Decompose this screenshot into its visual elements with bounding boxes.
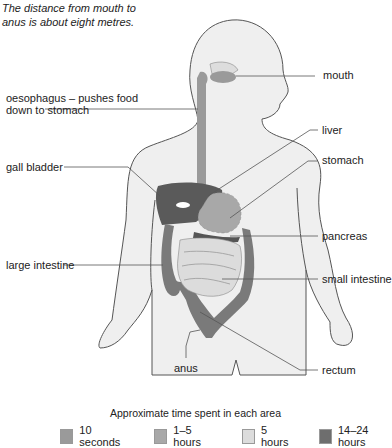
legend-item: 10 seconds xyxy=(60,424,128,448)
label-large-intestine: large intestine xyxy=(6,259,75,272)
label-stomach: stomach xyxy=(322,154,364,167)
legend-label: 1–5 hours xyxy=(173,424,215,448)
legend-title: Approximate time spent in each area xyxy=(0,407,391,419)
legend-swatch xyxy=(242,429,255,444)
legend-label: 5 hours xyxy=(261,424,293,448)
legend-label: 10 seconds xyxy=(79,424,128,448)
legend-swatch xyxy=(319,429,332,444)
legend-label: 14–24 hours xyxy=(338,424,391,448)
small-intestine xyxy=(178,238,242,296)
label-liver: liver xyxy=(322,124,342,137)
label-gall-bladder: gall bladder xyxy=(6,161,63,174)
legend-item: 5 hours xyxy=(242,424,293,448)
label-pancreas: pancreas xyxy=(322,230,367,243)
legend-swatch xyxy=(154,429,167,444)
label-small-intestine: small intestine xyxy=(322,273,392,286)
legend: 10 seconds 1–5 hours 5 hours 14–24 hours xyxy=(60,424,391,448)
mouth-tongue xyxy=(210,71,236,83)
label-oesophagus-2: down to stomach xyxy=(6,104,89,117)
legend-swatch xyxy=(60,429,73,444)
gall-bladder xyxy=(176,202,190,208)
label-rectum: rectum xyxy=(322,364,356,377)
legend-item: 14–24 hours xyxy=(319,424,391,448)
legend-item: 1–5 hours xyxy=(154,424,216,448)
label-mouth: mouth xyxy=(323,69,354,82)
label-anus: anus xyxy=(174,362,198,375)
